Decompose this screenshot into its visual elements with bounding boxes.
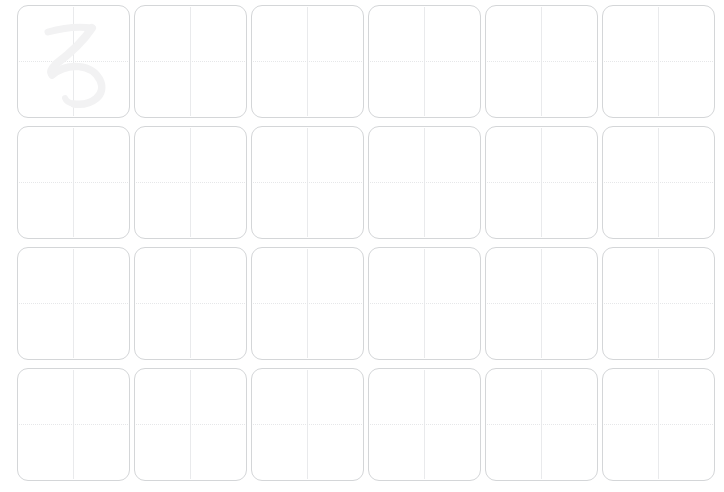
practice-cell-r2c6[interactable]: [602, 126, 715, 239]
practice-cell-r3c3[interactable]: [251, 247, 364, 360]
horizontal-guide-line: [253, 61, 362, 62]
horizontal-guide-line: [19, 424, 128, 425]
practice-cell-r4c5[interactable]: [485, 368, 598, 481]
practice-cell-r4c2[interactable]: [134, 368, 247, 481]
practice-cell-r2c5[interactable]: [485, 126, 598, 239]
horizontal-guide-line: [487, 61, 596, 62]
practice-cell-r3c1[interactable]: [17, 247, 130, 360]
horizontal-guide-line: [370, 303, 479, 304]
horizontal-guide-line: [253, 182, 362, 183]
practice-cell-r2c2[interactable]: [134, 126, 247, 239]
practice-cell-r3c6[interactable]: [602, 247, 715, 360]
practice-grid: [17, 5, 715, 483]
horizontal-guide-line: [253, 303, 362, 304]
horizontal-guide-line: [19, 303, 128, 304]
horizontal-guide-line: [136, 182, 245, 183]
practice-cell-r4c1[interactable]: [17, 368, 130, 481]
horizontal-guide-line: [19, 61, 128, 62]
horizontal-guide-line: [487, 182, 596, 183]
horizontal-guide-line: [487, 424, 596, 425]
horizontal-guide-line: [604, 182, 713, 183]
practice-cell-r3c2[interactable]: [134, 247, 247, 360]
horizontal-guide-line: [136, 303, 245, 304]
trace-glyph-ro: [18, 6, 131, 119]
horizontal-guide-line: [487, 303, 596, 304]
horizontal-guide-line: [604, 303, 713, 304]
horizontal-guide-line: [136, 61, 245, 62]
practice-cell-r1c2[interactable]: [134, 5, 247, 118]
practice-cell-r2c4[interactable]: [368, 126, 481, 239]
practice-cell-r3c4[interactable]: [368, 247, 481, 360]
horizontal-guide-line: [253, 424, 362, 425]
horizontal-guide-line: [604, 61, 713, 62]
practice-cell-r1c5[interactable]: [485, 5, 598, 118]
practice-cell-r4c4[interactable]: [368, 368, 481, 481]
horizontal-guide-line: [370, 61, 479, 62]
horizontal-guide-line: [370, 424, 479, 425]
practice-cell-r2c1[interactable]: [17, 126, 130, 239]
practice-cell-r1c6[interactable]: [602, 5, 715, 118]
practice-cell-r2c3[interactable]: [251, 126, 364, 239]
practice-cell-r1c4[interactable]: [368, 5, 481, 118]
horizontal-guide-line: [604, 424, 713, 425]
practice-cell-r4c6[interactable]: [602, 368, 715, 481]
horizontal-guide-line: [19, 182, 128, 183]
practice-cell-r1c3[interactable]: [251, 5, 364, 118]
practice-cell-r4c3[interactable]: [251, 368, 364, 481]
hiragana-practice-worksheet: [0, 0, 724, 492]
horizontal-guide-line: [370, 182, 479, 183]
practice-cell-r3c5[interactable]: [485, 247, 598, 360]
horizontal-guide-line: [136, 424, 245, 425]
practice-cell-r1c1[interactable]: [17, 5, 130, 118]
